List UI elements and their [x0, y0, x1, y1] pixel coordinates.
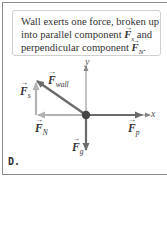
vector-arrow-icon: → — [128, 115, 136, 124]
vector-arrow-icon: → — [35, 115, 43, 124]
label-fs: →Fs — [20, 85, 31, 100]
panel-letter: D. — [8, 156, 20, 167]
origin-dot — [82, 111, 90, 119]
vector-arrow-icon: → — [72, 134, 80, 143]
label-fwall: →Fwall — [48, 74, 69, 89]
x-axis-label: x — [151, 108, 155, 119]
label-fg: →Fg — [72, 141, 83, 156]
vector-arrow-icon: → — [48, 67, 56, 76]
y-axis-label: y — [85, 56, 89, 67]
label-fp: →Fp — [128, 122, 139, 137]
label-fn: →FN — [35, 122, 48, 137]
vector-arrow-icon: → — [20, 78, 28, 87]
